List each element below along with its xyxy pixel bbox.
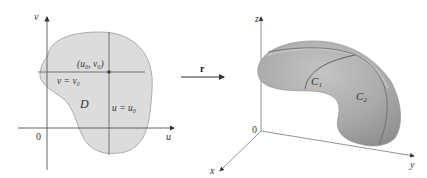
origin-3d-label: 0: [252, 124, 257, 135]
surface: [258, 41, 401, 146]
region-d: [40, 32, 152, 153]
surface-plot: z y x 0 C₁ C₂: [209, 13, 415, 176]
u-axis-label: u: [166, 131, 171, 142]
point-label: (u₀, v₀): [77, 59, 104, 70]
parametric-surface-diagram: v u 0 (u₀, v₀) v = v₀ u = u₀ D r z y x 0…: [0, 0, 427, 178]
x-axis-label: x: [209, 165, 215, 176]
z-axis-label: z: [254, 13, 259, 24]
v-equals-v0-label: v = v₀: [57, 76, 80, 86]
v-axis-label: v: [34, 11, 39, 22]
mapping-r: r: [181, 63, 224, 77]
point-u0-v0: [107, 70, 111, 74]
curve-c2-label: C₂: [356, 90, 367, 102]
y-axis-label: y: [409, 159, 415, 170]
curve-c1-label: C₁: [311, 75, 322, 87]
mapping-label: r: [200, 63, 205, 74]
domain-plot: v u 0 (u₀, v₀) v = v₀ u = u₀ D: [18, 11, 174, 170]
origin-label: 0: [36, 131, 41, 142]
region-d-label: D: [79, 97, 89, 111]
x-axis: [220, 131, 261, 171]
u-equals-u0-label: u = u₀: [112, 103, 136, 113]
